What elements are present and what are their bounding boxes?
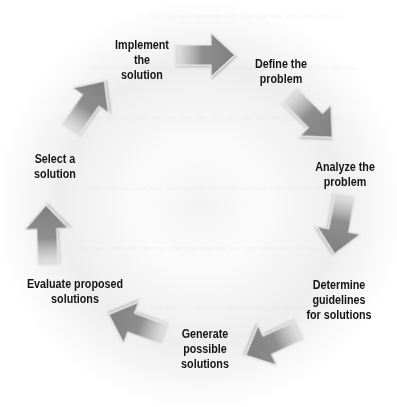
step-label-line: problem (242, 72, 319, 87)
step-generate-possible-solutions: Generate possible solutions (171, 327, 240, 372)
problem-solving-cycle-diagram: — — — — — — — — — — — — — — — — — — — — … (0, 0, 397, 407)
step-implement-the-solution: Implement the solution (106, 38, 178, 83)
step-label-line: solution (25, 167, 85, 182)
step-label-line: solution (106, 68, 178, 83)
arrow-icon-6 (24, 204, 70, 265)
step-label-line: Analyze the (306, 160, 383, 175)
step-label-line: possible (171, 342, 240, 357)
step-label-line: Implement (106, 38, 178, 53)
step-label-line: Determine (294, 278, 383, 293)
step-label-line: Define the (242, 57, 319, 72)
step-label-line: for solutions (294, 308, 383, 323)
step-label-line: solutions (19, 292, 131, 307)
step-label-line: problem (306, 175, 383, 190)
arrow-icon-1 (175, 33, 235, 77)
step-determine-guidelines: Determine guidelines for solutions (294, 278, 383, 323)
step-label-line: Evaluate proposed (19, 277, 131, 292)
step-define-the-problem: Define the problem (242, 57, 319, 87)
step-label-line: guidelines (294, 293, 383, 308)
step-select-a-solution: Select a solution (25, 152, 85, 182)
step-label-line: the (106, 53, 178, 68)
arrow-icon-2 (274, 79, 348, 153)
step-label-line: Generate (171, 327, 240, 342)
step-analyze-the-problem: Analyze the problem (306, 160, 383, 190)
step-label-line: solutions (171, 357, 240, 372)
arrow-icon-3 (313, 191, 367, 258)
step-evaluate-proposed-solutions: Evaluate proposed solutions (19, 277, 131, 307)
step-label-line: Select a (25, 152, 85, 167)
